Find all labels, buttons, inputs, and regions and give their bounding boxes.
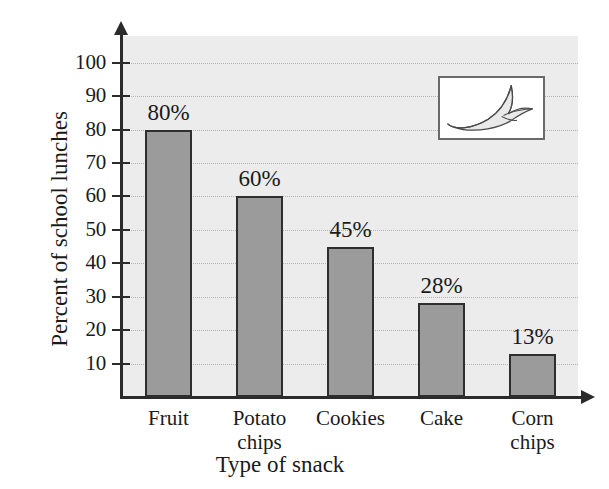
y-axis-line bbox=[120, 28, 123, 399]
y-tick-mark-10 bbox=[112, 363, 130, 365]
y-tick-mark-90 bbox=[112, 95, 130, 97]
banana-illustration-inset bbox=[438, 76, 545, 140]
bar-value-label: 60% bbox=[215, 167, 305, 190]
gridline-100 bbox=[123, 63, 578, 64]
y-axis-title: Percent of school lunches bbox=[47, 49, 73, 409]
bar bbox=[327, 247, 374, 397]
y-tick-mark-40 bbox=[112, 262, 130, 264]
y-tick-mark-80 bbox=[112, 129, 130, 131]
x-axis-title: Type of snack bbox=[0, 452, 560, 478]
y-axis-arrow-icon bbox=[114, 21, 128, 35]
bar bbox=[145, 130, 192, 397]
y-tick-mark-100 bbox=[112, 62, 130, 64]
banana-icon bbox=[440, 78, 543, 138]
y-tick-mark-30 bbox=[112, 296, 130, 298]
x-category-label: Corn chips bbox=[478, 406, 588, 454]
bar bbox=[236, 196, 283, 397]
bar-value-label: 13% bbox=[488, 325, 578, 348]
bar-chart-figure: 102030405060708090100 80%60%45%28%13% Fr… bbox=[0, 0, 609, 489]
y-tick-mark-60 bbox=[112, 195, 130, 197]
bar bbox=[509, 354, 556, 397]
bar-value-label: 28% bbox=[397, 274, 487, 297]
y-tick-mark-70 bbox=[112, 162, 130, 164]
x-axis-arrow-icon bbox=[581, 390, 595, 404]
bar bbox=[418, 303, 465, 397]
y-tick-mark-50 bbox=[112, 229, 130, 231]
bar-value-label: 80% bbox=[124, 101, 214, 124]
bar-value-label: 45% bbox=[306, 218, 396, 241]
y-tick-mark-20 bbox=[112, 329, 130, 331]
